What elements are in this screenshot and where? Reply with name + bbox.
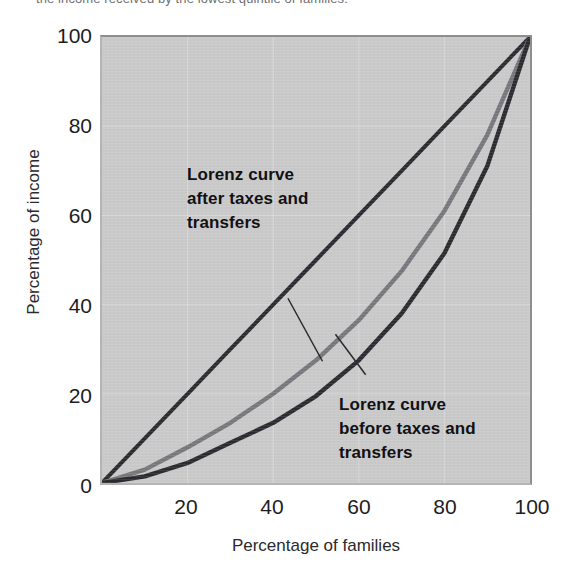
y-tick-40: 40 (6, 294, 92, 318)
y-tick-80: 80 (6, 114, 92, 138)
annotation-before-taxes: Lorenz curve before taxes and transfers (339, 393, 476, 465)
y-tick-100: 100 (6, 24, 92, 48)
y-axis-label: Percentage of income (24, 132, 44, 332)
annotation-after-line-3: transfers (187, 211, 309, 235)
x-tick-100: 100 (492, 495, 566, 519)
x-tick-60: 60 (319, 495, 399, 519)
annotation-after-line-2: after taxes and (187, 187, 309, 211)
x-axis-ticks: 20 40 60 80 100 (0, 495, 566, 525)
annotation-before-line-3: transfers (339, 441, 476, 465)
x-tick-20: 20 (146, 495, 226, 519)
x-tick-40: 40 (232, 495, 312, 519)
annotation-after-line-1: Lorenz curve (187, 163, 309, 187)
y-axis-ticks: 100 80 60 40 20 0 (0, 0, 92, 575)
lorenz-curve-figure: the income received by the lowest quinti… (0, 0, 566, 575)
annotation-before-line-2: before taxes and (339, 417, 476, 441)
y-tick-60: 60 (6, 204, 92, 228)
x-tick-80: 80 (405, 495, 485, 519)
x-axis-label: Percentage of families (133, 536, 499, 556)
annotation-before-line-1: Lorenz curve (339, 393, 476, 417)
annotation-after-taxes: Lorenz curve after taxes and transfers (187, 163, 309, 235)
y-tick-20: 20 (6, 384, 92, 408)
